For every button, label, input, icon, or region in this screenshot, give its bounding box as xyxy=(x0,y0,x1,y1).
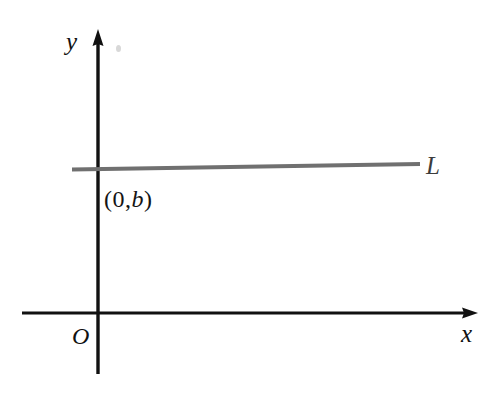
y-intercept-label: (0,b) xyxy=(104,186,153,213)
x-axis-arrowhead xyxy=(462,308,478,319)
line-L-label: L xyxy=(426,152,440,180)
x-axis-label: x xyxy=(461,320,472,348)
y-axis-label: y xyxy=(66,28,77,56)
y-intercept-open-paren: (0, xyxy=(104,186,132,212)
y-intercept-variable: b xyxy=(132,186,145,212)
y-axis-arrowhead xyxy=(93,29,104,46)
scan-speck-artifact xyxy=(116,45,121,52)
origin-label: O xyxy=(72,323,89,350)
line-L xyxy=(72,164,420,170)
coordinate-plane-figure: y x O L (0,b) xyxy=(0,0,498,394)
y-intercept-close-paren: ) xyxy=(144,186,153,212)
